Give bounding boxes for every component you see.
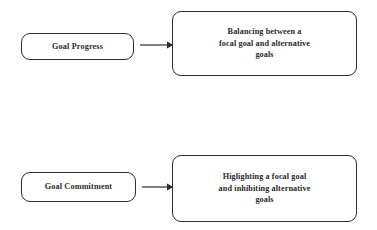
node-balancing-outcome: Balancing between a focal goal and alter… <box>172 11 357 76</box>
node-goal-progress: Goal Progress <box>21 33 134 60</box>
node-higlighting-outcome: Higlighting a focal goal and inhibiting … <box>172 155 357 222</box>
diagram-canvas: Goal Progress Balancing between a focal … <box>0 0 377 230</box>
node-goal-commitment: Goal Commitment <box>21 172 136 202</box>
node-goal-commitment-label: Goal Commitment <box>22 182 135 192</box>
right-arrow-icon <box>140 38 174 52</box>
node-higlighting-outcome-label: Higlighting a focal goal and inhibiting … <box>173 171 356 205</box>
right-arrow-icon <box>142 180 174 194</box>
node-goal-progress-label: Goal Progress <box>22 42 133 52</box>
node-balancing-outcome-label: Balancing between a focal goal and alter… <box>173 26 356 60</box>
